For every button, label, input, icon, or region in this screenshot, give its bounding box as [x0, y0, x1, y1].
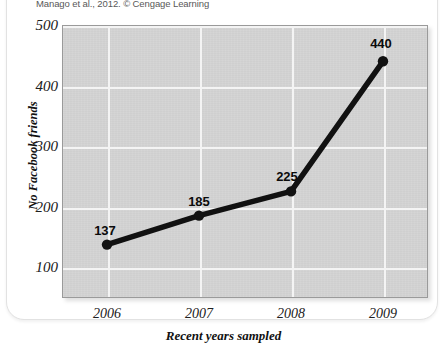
x-tick-label: 2008: [256, 306, 326, 322]
y-axis-title: No Facebook friends: [26, 76, 41, 236]
gridline-horizontal: [63, 87, 427, 89]
gridline-vertical: [108, 26, 110, 297]
gridline-horizontal: [63, 208, 427, 210]
gridline-vertical: [200, 26, 202, 297]
credit-line: Manago et al., 2012. © Cengage Learning: [36, 0, 209, 9]
x-axis-ticks: 2006200720082009: [0, 306, 447, 326]
plot-area: [62, 25, 428, 298]
gridline-vertical: [292, 26, 294, 297]
gridline-horizontal: [63, 147, 427, 149]
x-axis-title: Recent years sampled: [0, 328, 447, 344]
y-tick-label: 500: [16, 17, 58, 34]
y-tick-label: 100: [16, 259, 58, 276]
gridline-horizontal: [63, 268, 427, 270]
plot-texture: [63, 26, 427, 297]
gridline-vertical: [384, 26, 386, 297]
gridline-horizontal: [63, 26, 427, 28]
x-tick-label: 2006: [72, 306, 142, 322]
x-tick-label: 2007: [164, 306, 234, 322]
x-tick-label: 2009: [348, 306, 418, 322]
